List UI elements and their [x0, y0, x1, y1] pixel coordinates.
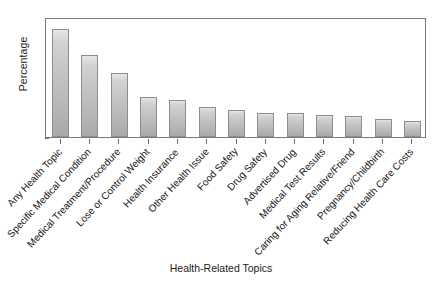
x-axis-tick-mark — [148, 139, 149, 144]
y-axis-title: Percentage — [17, 4, 29, 124]
x-axis-tick-mark — [265, 139, 266, 144]
bar — [111, 73, 128, 138]
x-axis-tick-mark — [60, 139, 61, 144]
x-axis-title: Health-Related Topics — [0, 262, 442, 274]
x-axis-tick-mark — [294, 139, 295, 144]
bar-chart-figure: Percentage 01020304050607080 Any Health … — [0, 0, 442, 283]
x-axis-tick-mark — [382, 139, 383, 144]
bar — [228, 110, 245, 137]
x-axis-tick-mark — [206, 139, 207, 144]
bar — [404, 121, 421, 138]
bar — [375, 119, 392, 137]
x-axis-tick-mark — [89, 139, 90, 144]
x-axis-tick-mark — [411, 139, 412, 144]
x-axis-tick-mark — [118, 139, 119, 144]
bar — [169, 100, 186, 138]
bar — [199, 107, 216, 137]
bar — [81, 55, 98, 138]
plot-area — [45, 18, 426, 138]
x-axis-category-label: Advertised Drug — [241, 146, 298, 206]
x-axis-tick-mark — [236, 139, 237, 144]
bar — [257, 113, 274, 137]
bar — [140, 97, 157, 138]
x-axis-tick-mark — [177, 139, 178, 144]
y-axis-tick-mark — [45, 138, 49, 139]
bar — [287, 113, 304, 137]
x-axis-tick-mark — [353, 139, 354, 144]
bar — [316, 115, 333, 138]
bar — [52, 29, 69, 137]
bar — [345, 116, 362, 137]
x-axis-tick-mark — [323, 139, 324, 144]
